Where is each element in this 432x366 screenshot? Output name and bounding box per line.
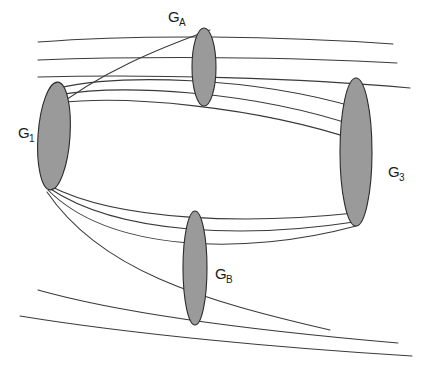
edge-g1-over-ga-to-g3-3 [57, 101, 359, 141]
node-G1[interactable] [34, 81, 73, 191]
label-base-GB: G [215, 265, 227, 282]
ellipse-GB[interactable] [183, 211, 207, 325]
node-G3[interactable] [340, 78, 372, 226]
label-subscript-G1: 1 [29, 133, 35, 144]
label-base-GA: G [168, 8, 180, 25]
label-base-G1: G [18, 124, 30, 141]
label-group-G3: G3 [388, 163, 405, 183]
node-GB[interactable] [183, 211, 207, 325]
label-subscript-GA: A [179, 17, 186, 28]
edge-top-line-2 [38, 58, 397, 63]
edge-g1-lower-arc-1 [50, 186, 355, 219]
edge-top-line-1 [38, 37, 393, 44]
edge-bottom-line-2 [20, 316, 412, 356]
nodes-layer [34, 28, 372, 325]
ellipse-G3[interactable] [340, 78, 372, 226]
group-connection-diagram: G1GAG3GB [0, 0, 432, 366]
node-GA[interactable] [192, 28, 216, 106]
label-group-G1: G1 [18, 124, 35, 144]
edge-ga-down-to-g1 [50, 30, 210, 112]
ellipse-GA[interactable] [192, 28, 216, 106]
ellipse-G1[interactable] [34, 81, 73, 191]
label-group-GB: GB [215, 265, 233, 285]
diagram-canvas: G1GAG3GB [0, 0, 432, 366]
label-group-GA: GA [168, 8, 186, 28]
label-base-G3: G [388, 163, 400, 180]
edge-bottom-line-1 [38, 290, 398, 343]
label-subscript-GB: B [226, 274, 233, 285]
label-subscript-G3: 3 [399, 172, 405, 183]
